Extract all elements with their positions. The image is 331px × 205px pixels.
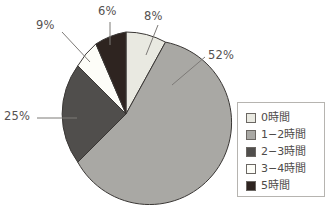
legend-swatch-icon-1-2-hours [246,130,256,140]
leader-line-9-percent [62,32,90,62]
legend-swatch-icon-2-3-hours [246,147,256,157]
legend-item-1-2-hours[interactable]: 1−2時間 [246,127,306,142]
data-label-1-2-hours: 52% [208,50,234,62]
data-label-2-3-hours: 25% [4,111,30,123]
legend-label-1-2-hours: 1−2時間 [261,129,306,140]
legend-item-3-4-hours[interactable]: 3−4時間 [246,161,306,176]
data-label-0-hours: 8% [144,11,163,23]
legend-swatch-icon-0-hours [246,113,256,123]
legend-swatch-icon-5-hours [246,181,256,191]
pie-chart: 8% 52% 25% 9% 6% 0時間 1−2時間 2−3時間 3−4時間 [0,0,331,205]
legend: 0時間 1−2時間 2−3時間 3−4時間 5時間 [237,102,325,197]
legend-label-0-hours: 0時間 [261,112,290,123]
legend-label-3-4-hours: 3−4時間 [261,163,306,174]
legend-item-2-3-hours[interactable]: 2−3時間 [246,144,306,159]
legend-list: 0時間 1−2時間 2−3時間 3−4時間 5時間 [246,110,306,193]
legend-item-0-hours[interactable]: 0時間 [246,110,306,125]
legend-item-5-hours[interactable]: 5時間 [246,178,306,193]
data-label-5-hours: 6% [98,6,117,18]
legend-label-2-3-hours: 2−3時間 [261,146,306,157]
data-label-3-4-hours: 9% [36,20,55,32]
legend-label-5-hours: 5時間 [261,180,290,191]
legend-swatch-icon-3-4-hours [246,164,256,174]
